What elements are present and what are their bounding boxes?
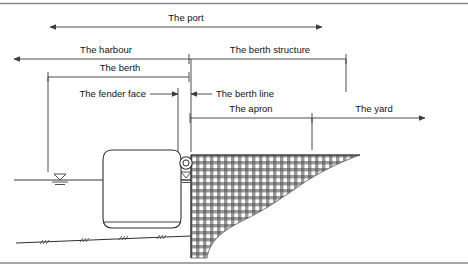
dimension-the-berth-line <box>191 59 212 152</box>
dimension-the-apron <box>190 113 312 150</box>
label-the-berth: The berth <box>100 62 141 73</box>
vessel-hull <box>103 150 181 228</box>
circular-fender <box>180 157 192 169</box>
seabed-line <box>16 235 191 244</box>
port-terminology-diagram: The port The harbour The berth structure… <box>0 0 468 269</box>
dimension-the-fender-face <box>150 88 178 152</box>
dimension-the-berth-structure <box>189 54 346 92</box>
label-the-port: The port <box>168 12 204 23</box>
label-the-harbour: The harbour <box>80 44 132 55</box>
label-the-fender-face: The fender face <box>79 88 146 99</box>
label-the-berth-line: The berth line <box>216 88 274 99</box>
label-the-apron: The apron <box>229 103 272 114</box>
label-the-berth-structure: The berth structure <box>230 44 310 55</box>
water-level-marker-left <box>52 174 68 185</box>
berth-structure-mass <box>191 155 360 258</box>
label-the-yard: The yard <box>355 103 393 114</box>
